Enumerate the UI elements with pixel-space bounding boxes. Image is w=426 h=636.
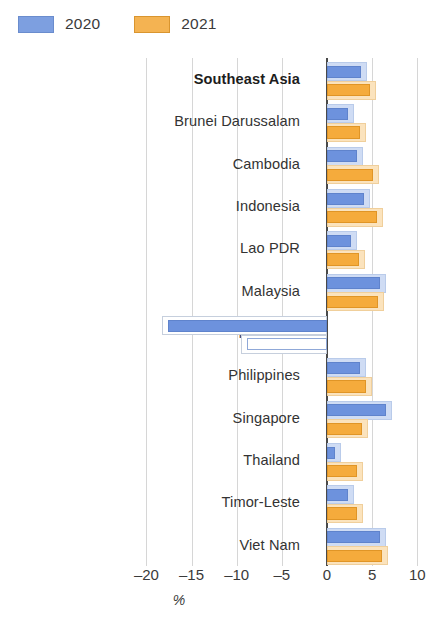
x-tick--15: –15 [170, 566, 214, 583]
bar-row: Southeast Asia [0, 58, 426, 100]
chart-legend: 2020 2021 [18, 13, 251, 35]
x-tick--20: –20 [124, 566, 168, 583]
bar-2020 [327, 531, 380, 543]
bar-row: Cambodia [0, 143, 426, 185]
bar-group [0, 481, 426, 523]
bar-group [0, 58, 426, 100]
x-tick--10: –10 [215, 566, 259, 583]
bar-group [0, 312, 426, 354]
legend-label-2021: 2021 [181, 15, 216, 33]
bar-group [0, 143, 426, 185]
bar-row: Timor-Leste [0, 481, 426, 523]
bar-row: Lao PDR [0, 227, 426, 269]
bar-row: Myanmar [0, 312, 426, 354]
bar-row: Indonesia [0, 185, 426, 227]
bar-2020 [168, 320, 327, 332]
bar-group [0, 185, 426, 227]
x-tick--5: –5 [260, 566, 304, 583]
bar-2020 [327, 447, 335, 459]
bar-2020 [327, 193, 364, 205]
bar-2020 [327, 362, 360, 374]
bar-2021 [327, 84, 370, 96]
x-axis-tick-labels: –20–15–10–50510 [0, 566, 426, 592]
bar-chart: 2020 2021 Southeast AsiaBrunei Darussala… [0, 0, 426, 636]
bar-group [0, 524, 426, 566]
bar-2021 [327, 211, 377, 223]
bar-2021 [327, 296, 378, 308]
bar-2021 [327, 380, 366, 392]
bar-2021 [327, 169, 373, 181]
bar-row: Brunei Darussalam [0, 100, 426, 142]
bar-2020 [327, 277, 380, 289]
bar-2020 [327, 489, 348, 501]
bar-2021 [327, 423, 362, 435]
x-axis-title: % [0, 592, 426, 608]
legend-item-2020: 2020 [18, 15, 100, 33]
x-axis-title-text: % [173, 592, 185, 608]
bar-2020 [327, 150, 357, 162]
legend-label-2020: 2020 [65, 15, 100, 33]
bar-row: Viet Nam [0, 524, 426, 566]
bar-2021 [327, 465, 357, 477]
bar-2021 [327, 126, 360, 138]
bar-row: Thailand [0, 439, 426, 481]
plot-area: Southeast AsiaBrunei DarussalamCambodiaI… [0, 58, 426, 566]
x-tick-0: 0 [305, 566, 349, 583]
x-tick-10: 10 [395, 566, 426, 583]
bar-row: Malaysia [0, 270, 426, 312]
bar-group [0, 270, 426, 312]
bar-group [0, 439, 426, 481]
bar-2021 [327, 507, 357, 519]
bar-2021 [327, 550, 382, 562]
bar-group [0, 397, 426, 439]
bar-2021 [247, 338, 327, 350]
bar-2020 [327, 108, 348, 120]
bar-group [0, 227, 426, 269]
bar-2021 [327, 253, 359, 265]
bar-group [0, 354, 426, 396]
bar-row: Singapore [0, 397, 426, 439]
bar-2020 [327, 66, 361, 78]
legend-item-2021: 2021 [134, 15, 216, 33]
legend-swatch-2020-icon [18, 16, 54, 33]
bar-row: Philippines [0, 354, 426, 396]
bar-group [0, 100, 426, 142]
bar-2020 [327, 235, 351, 247]
x-tick-5: 5 [350, 566, 394, 583]
bar-2020 [327, 404, 386, 416]
legend-swatch-2021-icon [134, 16, 170, 33]
